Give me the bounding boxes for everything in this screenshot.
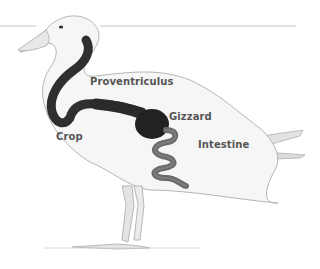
goose-beak xyxy=(18,30,49,51)
goose-leg xyxy=(134,186,144,240)
label-intestine: Intestine xyxy=(198,139,249,150)
label-crop: Crop xyxy=(56,131,83,142)
goose-eye xyxy=(59,25,63,28)
label-gizzard: Gizzard xyxy=(169,111,212,122)
goose-illustration xyxy=(0,0,320,269)
gizzard xyxy=(135,109,169,139)
goose-leg xyxy=(122,186,134,242)
label-proventriculus: Proventriculus xyxy=(90,76,174,87)
goose-digestive-diagram: Proventriculus Gizzard Crop Intestine xyxy=(0,0,320,269)
